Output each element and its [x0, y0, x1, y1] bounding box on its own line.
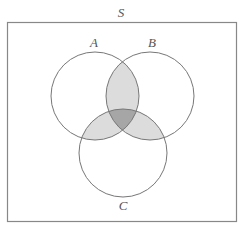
set-c-label: C: [119, 198, 128, 213]
universe-label: S: [118, 5, 125, 20]
venn-diagram: S A B C: [0, 0, 244, 232]
set-b-label: B: [148, 35, 156, 50]
set-a-label: A: [89, 35, 98, 50]
